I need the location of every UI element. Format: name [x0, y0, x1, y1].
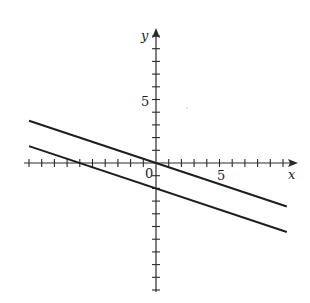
- x-axis-label: x: [288, 167, 296, 182]
- y-axis-label: y: [140, 28, 149, 43]
- line-y-equals-neg-x-over-3: [29, 121, 287, 207]
- coordinate-plot: x y 0 5 5: [0, 0, 310, 303]
- y-tick-label-5: 5: [141, 94, 149, 109]
- origin-label: 0: [145, 166, 153, 181]
- x-tick-label-5: 5: [217, 168, 225, 183]
- line-y-equals-neg-x-over-3-minus-2: [29, 146, 287, 232]
- minor-speck: [186, 107, 188, 109]
